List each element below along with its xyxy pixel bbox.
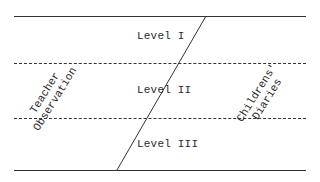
level-1-label: Level I: [137, 30, 185, 42]
level-2-label: Level II: [137, 84, 191, 96]
level-3-label: Level III: [137, 138, 198, 150]
